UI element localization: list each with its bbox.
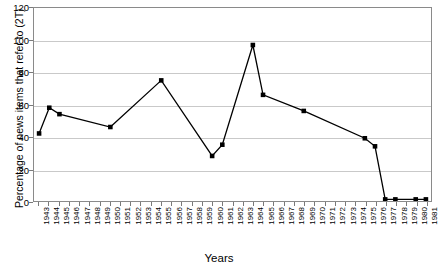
x-tick-mark (222, 202, 223, 206)
x-tick-mark (314, 202, 315, 206)
x-tick-mark (181, 202, 182, 206)
x-tick-mark (345, 202, 346, 206)
x-tick-mark (376, 202, 377, 206)
x-tick-label: 1958 (195, 207, 204, 225)
x-tick-mark (69, 202, 70, 206)
x-tick-mark (284, 202, 285, 206)
data-point-marker (57, 112, 62, 117)
x-tick-label: 1978 (400, 207, 409, 225)
x-tick-label: 1980 (420, 207, 429, 225)
x-tick-mark (427, 202, 428, 206)
x-tick-label: 1953 (144, 207, 153, 225)
data-point-marker (363, 136, 368, 141)
x-tick-mark (79, 202, 80, 206)
x-tick-mark (396, 202, 397, 206)
x-axis-tick-labels: 1943194419451946194719481949195019511952… (33, 207, 432, 251)
x-tick-label: 1973 (349, 207, 358, 225)
x-tick-mark (304, 202, 305, 206)
x-tick-mark (212, 202, 213, 206)
data-point-marker (37, 131, 42, 136)
data-point-marker (159, 78, 164, 83)
x-tick-label: 1969 (308, 207, 317, 225)
data-point-marker (383, 197, 388, 201)
x-tick-label: 1979 (410, 207, 419, 225)
data-point-marker (251, 43, 256, 48)
x-tick-label: 1955 (164, 207, 173, 225)
x-tick-label: 1967 (287, 207, 296, 225)
x-tick-label: 1960 (216, 207, 225, 225)
x-tick-mark (161, 202, 162, 206)
x-tick-label: 1964 (256, 207, 265, 225)
plot-area (33, 7, 432, 202)
x-tick-label: 1950 (113, 207, 122, 225)
data-line (39, 45, 426, 199)
x-tick-mark (171, 202, 172, 206)
x-tick-mark (59, 202, 60, 206)
x-tick-label: 1951 (123, 207, 132, 225)
x-tick-mark (355, 202, 356, 206)
x-tick-mark (233, 202, 234, 206)
x-tick-mark (110, 202, 111, 206)
data-point-marker (393, 197, 398, 201)
data-point-marker (373, 144, 378, 149)
line-chart: Percentage of news items that refer to (… (0, 0, 438, 276)
x-tick-mark (140, 202, 141, 206)
x-tick-label: 1962 (236, 207, 245, 225)
x-axis-title: Years (0, 252, 438, 264)
x-tick-label: 1976 (379, 207, 388, 225)
data-point-marker (47, 105, 52, 110)
x-tick-mark (263, 202, 264, 206)
x-tick-label: 1944 (52, 207, 61, 225)
x-tick-label: 1946 (72, 207, 81, 225)
x-tick-label: 1949 (103, 207, 112, 225)
x-tick-label: 1945 (62, 207, 71, 225)
data-point-marker (424, 197, 429, 201)
data-point-marker (220, 142, 225, 147)
x-tick-label: 1965 (267, 207, 276, 225)
x-tick-mark (38, 202, 39, 206)
x-tick-label: 1970 (318, 207, 327, 225)
x-tick-label: 1948 (93, 207, 102, 225)
x-tick-label: 1974 (359, 207, 368, 225)
x-tick-label: 1952 (134, 207, 143, 225)
x-tick-mark (386, 202, 387, 206)
x-tick-mark (366, 202, 367, 206)
x-tick-mark (325, 202, 326, 206)
y-axis-tick-marks (0, 0, 33, 212)
x-tick-label: 1961 (226, 207, 235, 225)
x-tick-mark (120, 202, 121, 206)
x-tick-label: 1963 (246, 207, 255, 225)
data-point-marker (210, 154, 215, 159)
x-tick-mark (192, 202, 193, 206)
series-line (34, 8, 431, 201)
x-tick-mark (130, 202, 131, 206)
x-tick-mark (48, 202, 49, 206)
x-tick-label: 1981 (430, 207, 438, 225)
data-point-marker (261, 93, 266, 98)
x-tick-label: 1954 (154, 207, 163, 225)
x-tick-label: 1959 (205, 207, 214, 225)
x-tick-mark (89, 202, 90, 206)
data-point-marker (301, 109, 306, 114)
x-tick-mark (335, 202, 336, 206)
x-tick-mark (406, 202, 407, 206)
x-tick-label: 1972 (338, 207, 347, 225)
x-tick-label: 1947 (83, 207, 92, 225)
x-tick-mark (294, 202, 295, 206)
x-tick-label: 1977 (389, 207, 398, 225)
x-tick-mark (100, 202, 101, 206)
data-point-marker (108, 125, 113, 130)
x-tick-mark (202, 202, 203, 206)
x-tick-mark (417, 202, 418, 206)
x-tick-label: 1943 (42, 207, 51, 225)
x-tick-mark (151, 202, 152, 206)
x-tick-label: 1956 (175, 207, 184, 225)
x-tick-label: 1966 (277, 207, 286, 225)
data-point-marker (413, 197, 418, 201)
x-tick-mark (273, 202, 274, 206)
x-tick-mark (253, 202, 254, 206)
x-tick-label: 1968 (297, 207, 306, 225)
x-tick-label: 1975 (369, 207, 378, 225)
x-tick-label: 1971 (328, 207, 337, 225)
x-tick-mark (243, 202, 244, 206)
